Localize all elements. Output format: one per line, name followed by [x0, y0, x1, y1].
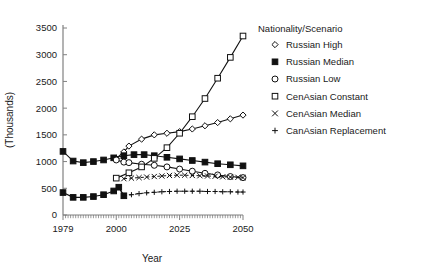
legend-item-label: Russian High	[286, 39, 343, 50]
data-point-marker	[177, 130, 183, 136]
data-point-marker	[126, 160, 132, 166]
y-tick-label: 500	[41, 183, 57, 194]
y-tick-label: 1000	[36, 156, 57, 167]
y-tick-label: 0	[52, 209, 57, 220]
data-point-marker	[91, 159, 97, 165]
chart-figure: 0500100015002000250030003500 19792000202…	[0, 0, 422, 270]
data-point-marker	[60, 190, 66, 196]
data-point-marker	[164, 145, 170, 151]
x-tick-label: 1979	[52, 223, 73, 234]
data-point-marker	[240, 163, 246, 169]
legend-item-cenasian-constant[interactable]: CenAsian Constant	[272, 91, 368, 102]
data-point-marker	[113, 175, 119, 181]
x-tick-label: 2050	[232, 223, 253, 234]
legend-item-label: Russian Median	[286, 56, 354, 67]
data-point-marker	[91, 194, 97, 200]
data-point-marker	[189, 114, 195, 120]
data-point-marker	[189, 158, 195, 164]
data-point-marker	[70, 158, 76, 164]
data-point-marker	[116, 184, 122, 190]
data-point-marker	[202, 96, 208, 102]
data-point-marker	[240, 33, 246, 39]
legend-item-label: Russian Low	[286, 73, 341, 84]
y-axis-title: (Thousands)	[4, 92, 15, 148]
data-point-marker	[60, 149, 66, 155]
data-point-marker	[131, 152, 137, 158]
data-point-marker	[80, 160, 86, 166]
data-point-marker	[151, 156, 157, 162]
y-tick-label: 2500	[36, 76, 57, 87]
data-point-marker	[164, 164, 170, 170]
data-point-marker	[80, 195, 86, 201]
data-point-marker	[215, 75, 221, 81]
data-point-marker	[151, 162, 157, 168]
y-tick-label: 3500	[36, 22, 57, 33]
data-point-marker	[113, 157, 119, 163]
data-point-marker	[164, 154, 170, 160]
y-tick-label: 2000	[36, 103, 57, 114]
legend-item-label: CenAsian Median	[286, 108, 361, 119]
y-tick-label: 1500	[36, 129, 57, 140]
data-point-marker	[121, 153, 127, 159]
legend-item-canasian-replacement[interactable]: CanAsian Replacement	[272, 125, 386, 136]
x-axis-title: Year	[142, 253, 163, 264]
data-point-marker	[101, 157, 107, 163]
data-point-marker	[202, 159, 208, 165]
data-point-marker	[177, 156, 183, 162]
data-point-marker	[70, 195, 76, 201]
x-tick-label: 2000	[106, 223, 127, 234]
population-projection-chart: 0500100015002000250030003500 19792000202…	[0, 0, 422, 270]
data-point-marker	[228, 162, 234, 168]
data-point-marker	[101, 192, 107, 198]
legend-item-label: CanAsian Replacement	[286, 125, 386, 136]
legend-item-cenasian-median[interactable]: CenAsian Median	[272, 108, 361, 119]
data-point-marker	[272, 59, 278, 65]
x-tick-label: 2025	[169, 223, 190, 234]
data-point-marker	[215, 161, 221, 167]
data-point-marker	[272, 93, 278, 99]
legend-item-label: CenAsian Constant	[286, 91, 368, 102]
data-point-marker	[126, 170, 132, 176]
legend-title: Nationality/Scenario	[258, 23, 343, 34]
data-point-marker	[141, 152, 147, 158]
data-point-marker	[139, 164, 145, 170]
y-tick-label: 3000	[36, 49, 57, 60]
data-point-marker	[272, 76, 278, 82]
data-point-marker	[228, 55, 234, 61]
data-point-marker	[177, 166, 183, 172]
